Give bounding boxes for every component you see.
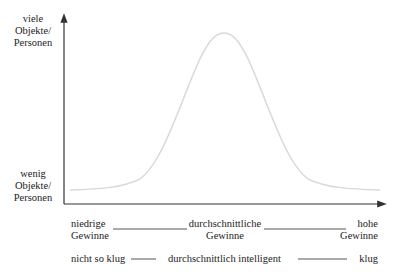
gains-average-line-2: Gewinne <box>178 230 272 242</box>
y-axis-bottom-label: wenig Objekte/ Personen <box>8 168 58 204</box>
gains-low-label: niedrige Gewinne <box>71 218 109 242</box>
gains-low-line-2: Gewinne <box>71 230 109 242</box>
y-bottom-line-1: wenig <box>8 168 58 180</box>
gains-average-label: durchschnittliche Gewinne <box>178 218 272 242</box>
intelligence-high-label: klug <box>348 253 378 265</box>
intelligence-low-label: nicht so klug <box>71 253 125 265</box>
y-top-line-1: viele <box>8 13 58 25</box>
gains-high-label: hohe Gewinne <box>330 218 378 242</box>
gains-low-line-1: niedrige <box>71 218 109 230</box>
y-top-line-3: Personen <box>8 37 58 49</box>
gains-average-line-1: durchschnittliche <box>178 218 272 230</box>
y-top-line-2: Objekte/ <box>8 25 58 37</box>
bell-curve <box>70 33 380 190</box>
intelligence-average-label: durchschnittlich intelligent <box>168 253 281 265</box>
y-bottom-line-3: Personen <box>8 192 58 204</box>
gains-high-line-2: Gewinne <box>330 230 378 242</box>
y-bottom-line-2: Objekte/ <box>8 180 58 192</box>
y-axis-top-label: viele Objekte/ Personen <box>8 13 58 49</box>
gains-high-line-1: hohe <box>330 218 378 230</box>
